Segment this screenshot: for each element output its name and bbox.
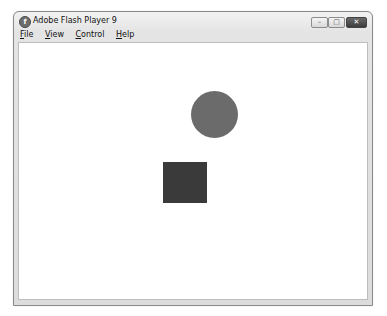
- minimize-icon: –: [312, 18, 327, 27]
- maximize-icon: □: [329, 18, 344, 27]
- title-bar[interactable]: f Adobe Flash Player 9 – □ ✕: [14, 12, 372, 29]
- menu-file[interactable]: File: [17, 30, 33, 39]
- flash-stage[interactable]: [18, 42, 368, 300]
- menu-control[interactable]: Control: [72, 30, 104, 39]
- menu-bar: File View Control Help: [17, 30, 369, 41]
- gray-circle: [191, 91, 238, 138]
- menu-help[interactable]: Help: [113, 30, 134, 39]
- dark-square: [163, 162, 207, 203]
- flash-player-window: f Adobe Flash Player 9 – □ ✕ File View C…: [13, 11, 373, 306]
- maximize-button[interactable]: □: [328, 17, 345, 28]
- close-button[interactable]: ✕: [346, 17, 367, 28]
- close-icon: ✕: [347, 18, 366, 27]
- menu-view[interactable]: View: [42, 30, 64, 39]
- flash-player-icon: f: [19, 16, 31, 28]
- minimize-button[interactable]: –: [311, 17, 328, 28]
- window-title: Adobe Flash Player 9: [33, 16, 117, 25]
